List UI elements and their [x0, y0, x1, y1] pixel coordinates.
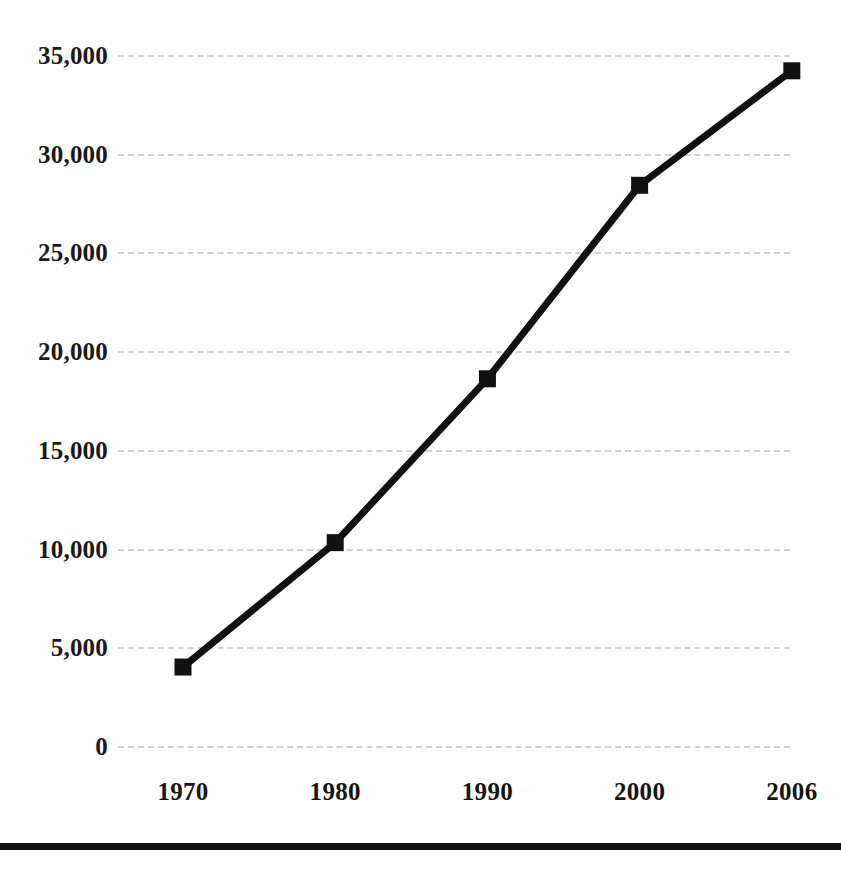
y-tick-label: 25,000: [0, 240, 108, 265]
y-tick-label: 35,000: [0, 43, 108, 68]
series-markers: [175, 62, 801, 675]
y-tick-label: 5,000: [0, 635, 108, 660]
y-tick-label: 10,000: [0, 536, 108, 561]
y-tick-label: 15,000: [0, 437, 108, 462]
y-tick-label: 0: [0, 734, 108, 759]
y-tick-label: 20,000: [0, 339, 108, 364]
series-line: [183, 71, 792, 667]
y-tick-label: 30,000: [0, 141, 108, 166]
x-tick-label: 1990: [462, 779, 513, 804]
x-tick-label: 1970: [157, 779, 208, 804]
data-point-marker: [327, 534, 344, 551]
line-chart-figure: 05,00010,00015,00020,00025,00030,00035,0…: [0, 0, 841, 869]
plot-area: [118, 55, 790, 746]
x-tick-label: 2006: [766, 779, 817, 804]
y-axis-tick-labels: 05,00010,00015,00020,00025,00030,00035,0…: [0, 55, 108, 746]
data-series-svg: [118, 55, 790, 746]
data-point-marker: [631, 177, 648, 194]
x-tick-label: 1980: [310, 779, 361, 804]
data-point-marker: [479, 370, 496, 387]
bottom-divider-rule: [0, 843, 841, 850]
data-point-marker: [175, 659, 192, 676]
x-tick-label: 2000: [614, 779, 665, 804]
gridline: [118, 746, 790, 748]
data-point-marker: [783, 62, 800, 79]
x-axis-tick-labels: 19701980199020002006: [118, 779, 790, 813]
